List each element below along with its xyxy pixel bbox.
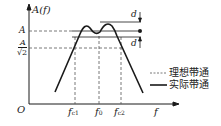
y-tick-A-over-sqrt2-num: A: [20, 39, 26, 47]
legend-ideal-label: 理想带通: [169, 68, 209, 78]
x-tick-f0-sub: 0: [99, 109, 103, 116]
y-tick-A: A: [19, 26, 26, 35]
bandpass-response-diagram: [0, 0, 221, 126]
x-tick-fc1-sub: c1: [72, 109, 79, 116]
x-tick-fc2: fc2: [114, 107, 125, 117]
x-tick-fc1: fc1: [68, 107, 79, 117]
reference-lines: [29, 31, 122, 104]
origin-label: O: [17, 105, 25, 115]
x-axis-arrow: [173, 102, 179, 106]
y-axis-label: A(f): [32, 5, 51, 15]
axes: [27, 4, 179, 106]
x-tick-f0: f0: [95, 107, 103, 117]
y-axis-arrow: [27, 4, 31, 10]
ripple-d-bottom-label: d: [131, 39, 137, 48]
x-tick-fc2-sub: c2: [118, 109, 125, 116]
x-axis-label: f: [154, 107, 158, 117]
legend-actual-label: 实际带通: [169, 80, 209, 90]
nominal-A-dot: [138, 29, 142, 33]
ripple-d-top-label: d: [131, 10, 137, 19]
y-tick-A-over-sqrt2-den: √2: [17, 49, 27, 57]
